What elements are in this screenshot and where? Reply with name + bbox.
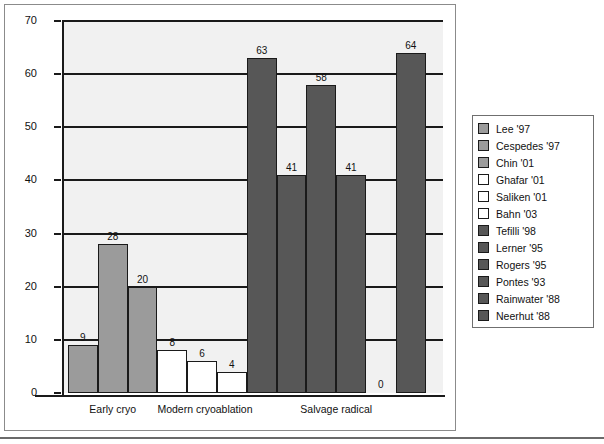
y-tick-label-50: 50 [15,121,37,132]
legend-swatch-icon [478,157,489,168]
bar-value-saliken-01: 6 [187,348,217,359]
y-tick-label-70: 70 [15,15,37,26]
y-tick-mark-40 [54,179,61,181]
legend-item-label: Bahn '03 [496,208,537,220]
gridline-70 [62,20,443,22]
bar-value-ghafar-01: 8 [157,337,187,348]
y-axis-line [62,21,64,395]
bar-value-lee-97: 9 [68,332,98,343]
y-tick-mark-70 [54,20,61,22]
category-label-modern-cryoablation: Modern cryoablation [157,403,246,415]
legend-swatch-icon [478,191,489,202]
chart-frame: 010203040506070 9282086463415841064 Earl… [4,4,456,431]
y-tick-label-0: 0 [15,387,37,398]
y-tick-mark-10 [54,339,61,341]
legend-item-label: Lee '97 [496,123,530,135]
y-tick-mark-60 [54,73,61,75]
bar-value-tefilli-98: 63 [247,45,277,56]
legend-swatch-icon [478,140,489,151]
legend-swatch-icon [478,242,489,253]
legend-item-saliken-01[interactable]: Saliken '01 [478,188,588,205]
legend-swatch-icon [478,225,489,236]
category-label-early-cryo: Early cryo [68,403,157,415]
bar-rogers-95[interactable] [306,85,336,393]
legend-item-label: Lerner '95 [496,242,543,254]
legend-item-label: Neerhut '88 [496,310,550,322]
bar-value-rogers-95: 58 [306,72,336,83]
bar-saliken-01[interactable] [187,361,217,393]
x-axis-line [35,395,445,397]
y-tick-label-30: 30 [15,228,37,239]
chart-legend: Lee '97Cespedes '97Chin '01Ghafar '01Sal… [472,115,594,328]
legend-item-cespedes-97[interactable]: Cespedes '97 [478,137,588,154]
legend-item-pontes-93[interactable]: Pontes '93 [478,273,588,290]
legend-item-label: Rogers '95 [496,259,546,271]
bar-neerhut-88[interactable] [396,53,426,393]
legend-item-neerhut-88[interactable]: Neerhut '88 [478,307,588,324]
bar-value-lerner-95: 41 [277,162,307,173]
footer-divider [0,437,604,439]
y-tick-mark-0 [54,392,61,394]
y-tick-label-10: 10 [15,334,37,345]
bar-pontes-93[interactable] [336,175,366,393]
y-axis-tick-labels: 010203040506070 [13,5,37,432]
legend-item-label: Tefilli '98 [496,225,536,237]
y-tick-label-20: 20 [15,281,37,292]
legend-item-rainwater-88[interactable]: Rainwater '88 [478,290,588,307]
y-tick-mark-30 [54,233,61,235]
bar-cespedes-97[interactable] [98,244,128,393]
bar-lee-97[interactable] [68,345,98,393]
legend-item-rogers-95[interactable]: Rogers '95 [478,256,588,273]
legend-item-bahn-03[interactable]: Bahn '03 [478,205,588,222]
legend-swatch-icon [478,123,489,134]
legend-item-label: Pontes '93 [496,276,545,288]
legend-item-label: Ghafar '01 [496,174,545,186]
bar-lerner-95[interactable] [277,175,307,393]
legend-item-tefilli-98[interactable]: Tefilli '98 [478,222,588,239]
y-tick-mark-50 [54,126,61,128]
legend-item-ghafar-01[interactable]: Ghafar '01 [478,171,588,188]
y-tick-mark-20 [54,286,61,288]
legend-swatch-icon [478,310,489,321]
y-tick-label-60: 60 [15,68,37,79]
bar-bahn-03[interactable] [217,372,247,393]
bar-tefilli-98[interactable] [247,58,277,393]
legend-item-label: Saliken '01 [496,191,547,203]
legend-swatch-icon [478,174,489,185]
legend-item-lee-97[interactable]: Lee '97 [478,120,588,137]
legend-swatch-icon [478,208,489,219]
legend-item-label: Cespedes '97 [496,140,560,152]
bar-value-pontes-93: 41 [336,162,366,173]
bar-value-neerhut-88: 64 [396,40,426,51]
bar-chin-01[interactable] [128,287,158,393]
chart-page: 010203040506070 9282086463415841064 Earl… [0,0,604,444]
y-tick-label-40: 40 [15,174,37,185]
legend-swatch-icon [478,259,489,270]
legend-item-label: Rainwater '88 [496,293,560,305]
bar-value-bahn-03: 4 [217,359,247,370]
bar-ghafar-01[interactable] [157,350,187,393]
category-label-salvage-radical: Salvage radical [247,403,426,415]
legend-item-chin-01[interactable]: Chin '01 [478,154,588,171]
legend-swatch-icon [478,293,489,304]
legend-swatch-icon [478,276,489,287]
bar-value-cespedes-97: 28 [98,231,128,242]
legend-item-lerner-95[interactable]: Lerner '95 [478,239,588,256]
bar-value-rainwater-88: 0 [366,379,396,390]
legend-item-label: Chin '01 [496,157,534,169]
bar-value-chin-01: 20 [128,274,158,285]
